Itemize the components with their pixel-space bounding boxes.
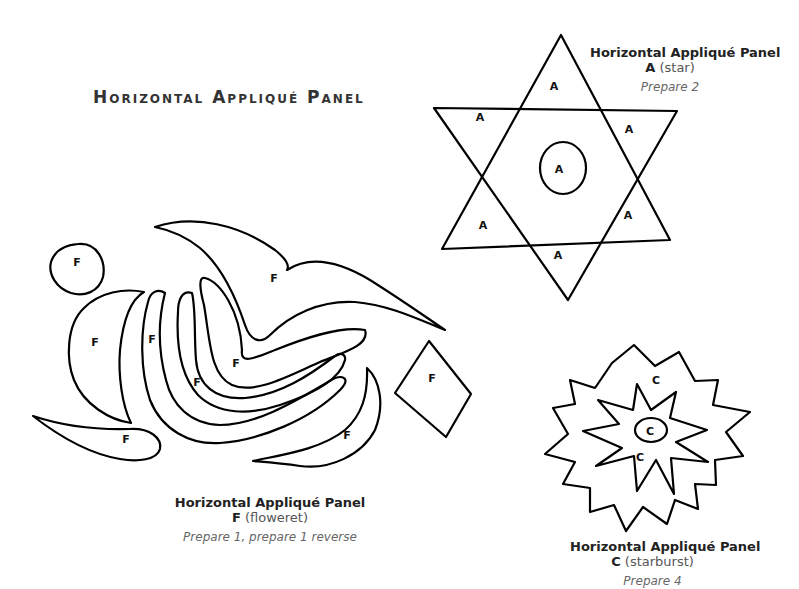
caption-piece: F (floweret) [170, 510, 370, 526]
piece-letter: F [232, 510, 241, 525]
svg-text:C: C [652, 374, 660, 387]
prepare-instruction: Prepare 1, prepare 1 reverse [170, 530, 370, 544]
svg-text:F: F [232, 357, 240, 370]
caption-heading: Horizontal Appliqué Panel [170, 495, 370, 510]
label-a: A [554, 249, 563, 262]
svg-text:F: F [193, 376, 201, 389]
caption-piece: A (star) [590, 60, 750, 76]
svg-text:C: C [646, 425, 654, 438]
prepare-instruction: Prepare 4 [570, 574, 735, 588]
floweret-diamond [395, 341, 471, 437]
starburst-caption: Horizontal Appliqué Panel C (starburst) … [570, 539, 735, 588]
floweret-caption: Horizontal Appliqué Panel F (floweret) P… [170, 495, 370, 544]
starburst-template-c: C C C [545, 345, 750, 531]
svg-text:F: F [270, 272, 278, 285]
floweret-teardrop [33, 416, 160, 460]
floweret-template-f: F F F F F F F F F [33, 222, 471, 467]
svg-text:F: F [148, 333, 156, 346]
piece-description: (floweret) [245, 510, 308, 525]
piece-letter: A [645, 60, 655, 75]
caption-piece: C (starburst) [570, 554, 735, 570]
label-a: A [479, 219, 488, 232]
floweret-crescent [69, 291, 144, 423]
floweret-band-3 [200, 278, 365, 388]
starburst-outer [545, 345, 750, 531]
label-a: A [624, 209, 633, 222]
piece-description: (star) [659, 60, 694, 75]
piece-description: (starburst) [625, 554, 694, 569]
caption-heading: Horizontal Appliqué Panel [570, 539, 735, 554]
star-down-triangle [434, 108, 677, 300]
prepare-instruction: Prepare 2 [590, 80, 750, 94]
svg-text:F: F [91, 336, 99, 349]
svg-text:F: F [343, 429, 351, 442]
floweret-swoosh [155, 222, 445, 341]
svg-text:C: C [636, 451, 644, 464]
starburst-inner-star [583, 384, 708, 494]
floweret-band-1 [142, 291, 345, 443]
svg-text:F: F [428, 372, 436, 385]
floweret-circle [50, 244, 103, 294]
piece-letter: C [611, 554, 621, 569]
star-caption: Horizontal Appliqué Panel A (star) Prepa… [590, 45, 750, 94]
svg-text:F: F [73, 256, 81, 269]
floweret-band-2 [178, 292, 346, 411]
caption-heading: Horizontal Appliqué Panel [590, 45, 750, 60]
label-a: A [476, 111, 485, 124]
label-a: A [625, 123, 634, 136]
label-a: A [555, 163, 564, 176]
svg-text:F: F [122, 433, 130, 446]
label-a: A [550, 80, 559, 93]
